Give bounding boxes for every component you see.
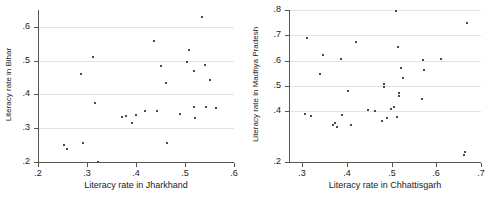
- plot-area-left: .2.3.4.5.6.2.3.4.5.6: [38, 10, 234, 162]
- data-point: [350, 124, 352, 126]
- x-tick: [38, 163, 39, 167]
- data-point: [80, 73, 82, 75]
- data-point: [204, 64, 206, 66]
- gridline: [289, 86, 481, 87]
- data-point: [63, 144, 65, 146]
- x-tick-label: .7: [471, 168, 491, 178]
- x-tick: [347, 163, 348, 167]
- data-point: [423, 69, 425, 71]
- data-point: [340, 58, 342, 60]
- data-point: [165, 82, 167, 84]
- x-tick-label: .6: [426, 168, 446, 178]
- data-point: [355, 41, 357, 43]
- data-point: [386, 117, 388, 119]
- gridline: [289, 111, 481, 112]
- y-tick-label: .4: [261, 105, 281, 115]
- data-point: [402, 77, 404, 79]
- data-point: [186, 61, 188, 63]
- data-point: [390, 108, 392, 110]
- data-point: [341, 114, 343, 116]
- data-point: [347, 90, 349, 92]
- y-tick: [285, 10, 289, 11]
- data-point: [396, 116, 398, 118]
- x-axis-line: [289, 162, 481, 163]
- x-tick: [436, 163, 437, 167]
- y-axis-line: [289, 10, 290, 162]
- panel-chhattisgarh-madhyapradesh: Literacy rate in Madhya Pradesh .2.4.5.6…: [247, 0, 494, 199]
- data-point: [422, 59, 424, 61]
- x-tick-label: .2: [28, 168, 48, 178]
- x-tick-label: .4: [126, 168, 146, 178]
- data-point: [383, 83, 385, 85]
- x-tick: [392, 163, 393, 167]
- gridline: [38, 94, 234, 95]
- data-point: [82, 142, 84, 144]
- x-tick: [481, 163, 482, 167]
- data-point: [463, 154, 465, 156]
- x-tick: [185, 163, 186, 167]
- data-point: [310, 115, 312, 117]
- x-tick-label: .3: [77, 168, 97, 178]
- data-point: [393, 106, 395, 108]
- data-point: [374, 110, 376, 112]
- y-tick: [34, 27, 38, 28]
- data-point: [66, 148, 68, 150]
- data-point: [466, 22, 468, 24]
- data-point: [121, 116, 123, 118]
- y-tick: [285, 86, 289, 87]
- data-point: [383, 86, 385, 88]
- x-axis-title-right: Literacy rate in Chhattisgarh: [289, 180, 481, 190]
- data-point: [97, 161, 99, 163]
- data-point: [397, 46, 399, 48]
- data-point: [421, 98, 423, 100]
- data-point: [381, 120, 383, 122]
- data-point: [92, 56, 94, 58]
- y-tick: [34, 128, 38, 129]
- gridline: [289, 61, 481, 62]
- data-point: [201, 16, 203, 18]
- panel-jharkhand-bihar: Literacy rate in Bihar .2.3.4.5.6.2.3.4.…: [0, 0, 247, 199]
- x-tick-label: .4: [337, 168, 357, 178]
- y-tick-label: .5: [10, 55, 30, 65]
- x-tick-label: .6: [224, 168, 244, 178]
- y-tick-label: .5: [261, 80, 281, 90]
- data-point: [193, 70, 195, 72]
- data-point: [209, 79, 211, 81]
- y-tick: [285, 35, 289, 36]
- data-point: [131, 122, 133, 124]
- data-point: [193, 106, 195, 108]
- data-point: [464, 151, 466, 153]
- x-tick: [136, 163, 137, 167]
- data-point: [156, 110, 158, 112]
- y-tick-label: .4: [10, 88, 30, 98]
- gridline: [38, 27, 234, 28]
- data-point: [398, 92, 400, 94]
- data-point: [319, 73, 321, 75]
- data-point: [160, 65, 162, 67]
- x-tick-label: .5: [175, 168, 195, 178]
- y-tick-label: .6: [10, 21, 30, 31]
- y-axis-line: [38, 10, 39, 162]
- data-point: [367, 109, 369, 111]
- x-tick-label: .5: [382, 168, 402, 178]
- data-point: [334, 122, 336, 124]
- y-tick-label: .2: [10, 156, 30, 166]
- y-tick-label: .7: [261, 29, 281, 39]
- x-tick: [302, 163, 303, 167]
- data-point: [306, 37, 308, 39]
- data-point: [135, 114, 137, 116]
- gridline: [289, 10, 481, 11]
- gridline: [289, 35, 481, 36]
- data-point: [398, 95, 400, 97]
- data-point: [188, 49, 190, 51]
- data-point: [440, 58, 442, 60]
- y-tick-label: .6: [261, 55, 281, 65]
- data-point: [166, 142, 168, 144]
- y-tick-label: .3: [10, 122, 30, 132]
- data-point: [400, 67, 402, 69]
- data-point: [179, 113, 181, 115]
- data-point: [395, 10, 397, 12]
- x-tick-label: .3: [292, 168, 312, 178]
- y-tick-label: .8: [261, 4, 281, 14]
- x-tick: [87, 163, 88, 167]
